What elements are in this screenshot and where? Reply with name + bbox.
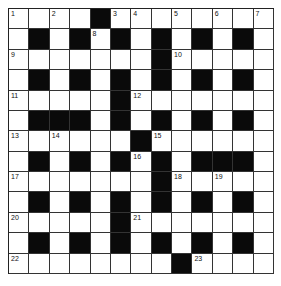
grid-cell[interactable] [213, 131, 233, 151]
grid-cell[interactable] [152, 213, 172, 233]
grid-cell[interactable] [152, 254, 172, 274]
grid-cell[interactable]: 12 [131, 91, 151, 111]
grid-cell[interactable] [172, 131, 192, 151]
grid-cell[interactable]: 17 [9, 172, 29, 192]
grid-cell[interactable] [50, 213, 70, 233]
grid-cell[interactable]: 1 [9, 9, 29, 29]
grid-cell[interactable] [254, 233, 274, 253]
grid-cell[interactable] [50, 152, 70, 172]
grid-cell[interactable] [50, 50, 70, 70]
grid-cell[interactable] [213, 233, 233, 253]
grid-cell[interactable] [192, 50, 212, 70]
grid-cell[interactable] [172, 233, 192, 253]
grid-cell[interactable] [254, 29, 274, 49]
grid-cell[interactable] [213, 254, 233, 274]
grid-cell[interactable] [233, 131, 253, 151]
grid-cell[interactable] [70, 9, 90, 29]
grid-cell[interactable]: 4 [131, 9, 151, 29]
grid-cell[interactable] [213, 91, 233, 111]
grid-cell[interactable] [172, 192, 192, 212]
grid-cell[interactable] [254, 50, 274, 70]
grid-cell[interactable]: 19 [213, 172, 233, 192]
grid-cell[interactable] [111, 254, 131, 274]
grid-cell[interactable] [29, 131, 49, 151]
grid-cell[interactable] [50, 233, 70, 253]
grid-cell[interactable]: 13 [9, 131, 29, 151]
grid-cell[interactable]: 2 [50, 9, 70, 29]
grid-cell[interactable]: 22 [9, 254, 29, 274]
grid-cell[interactable] [9, 29, 29, 49]
grid-cell[interactable] [70, 50, 90, 70]
grid-cell[interactable] [91, 172, 111, 192]
grid-cell[interactable] [91, 152, 111, 172]
grid-cell[interactable] [29, 91, 49, 111]
grid-cell[interactable] [131, 70, 151, 90]
grid-cell[interactable] [50, 172, 70, 192]
grid-cell[interactable] [91, 70, 111, 90]
grid-cell[interactable] [213, 213, 233, 233]
grid-cell[interactable]: 23 [192, 254, 212, 274]
grid-cell[interactable] [50, 192, 70, 212]
grid-cell[interactable] [233, 91, 253, 111]
grid-cell[interactable] [172, 111, 192, 131]
grid-cell[interactable] [233, 50, 253, 70]
grid-cell[interactable]: 21 [131, 213, 151, 233]
grid-cell[interactable] [50, 91, 70, 111]
grid-cell[interactable] [152, 9, 172, 29]
grid-cell[interactable]: 18 [172, 172, 192, 192]
grid-cell[interactable] [254, 254, 274, 274]
grid-cell[interactable] [254, 111, 274, 131]
grid-cell[interactable] [254, 91, 274, 111]
grid-cell[interactable]: 20 [9, 213, 29, 233]
grid-cell[interactable] [29, 213, 49, 233]
grid-cell[interactable] [172, 70, 192, 90]
grid-cell[interactable] [233, 254, 253, 274]
grid-cell[interactable] [172, 152, 192, 172]
grid-cell[interactable]: 11 [9, 91, 29, 111]
grid-cell[interactable] [172, 213, 192, 233]
grid-cell[interactable]: 5 [172, 9, 192, 29]
grid-cell[interactable]: 6 [213, 9, 233, 29]
grid-cell[interactable]: 9 [9, 50, 29, 70]
grid-cell[interactable] [233, 9, 253, 29]
grid-cell[interactable] [70, 131, 90, 151]
grid-cell[interactable] [70, 172, 90, 192]
grid-cell[interactable] [111, 172, 131, 192]
grid-cell[interactable]: 8 [91, 29, 111, 49]
grid-cell[interactable] [131, 111, 151, 131]
grid-cell[interactable] [192, 131, 212, 151]
grid-cell[interactable] [29, 9, 49, 29]
grid-cell[interactable] [9, 233, 29, 253]
grid-cell[interactable] [50, 70, 70, 90]
grid-cell[interactable] [9, 111, 29, 131]
grid-cell[interactable]: 15 [152, 131, 172, 151]
grid-cell[interactable] [9, 70, 29, 90]
grid-cell[interactable] [70, 91, 90, 111]
grid-cell[interactable] [91, 213, 111, 233]
grid-cell[interactable]: 7 [254, 9, 274, 29]
grid-cell[interactable] [213, 50, 233, 70]
grid-cell[interactable] [254, 70, 274, 90]
grid-cell[interactable] [172, 29, 192, 49]
grid-cell[interactable]: 16 [131, 152, 151, 172]
grid-cell[interactable] [213, 192, 233, 212]
grid-cell[interactable] [213, 70, 233, 90]
grid-cell[interactable] [9, 152, 29, 172]
grid-cell[interactable] [192, 9, 212, 29]
grid-cell[interactable] [111, 131, 131, 151]
grid-cell[interactable] [254, 172, 274, 192]
grid-cell[interactable] [254, 131, 274, 151]
grid-cell[interactable] [50, 29, 70, 49]
grid-cell[interactable] [233, 172, 253, 192]
grid-cell[interactable]: 10 [172, 50, 192, 70]
grid-cell[interactable] [29, 172, 49, 192]
grid-cell[interactable] [91, 111, 111, 131]
grid-cell[interactable] [254, 152, 274, 172]
grid-cell[interactable] [91, 233, 111, 253]
grid-cell[interactable] [9, 192, 29, 212]
grid-cell[interactable] [91, 131, 111, 151]
grid-cell[interactable] [91, 254, 111, 274]
grid-cell[interactable]: 14 [50, 131, 70, 151]
grid-cell[interactable] [131, 172, 151, 192]
grid-cell[interactable] [192, 172, 212, 192]
